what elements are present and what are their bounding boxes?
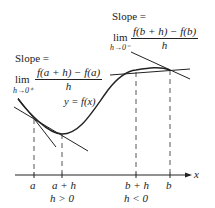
right-numerator: f(b + h) − f(b) [131,26,198,39]
x-axis-label: x [194,169,199,180]
left-numerator: f(a + h) − f(a) [35,67,102,80]
tangent-line-at-a [18,98,56,147]
left-lim-subscript: h→0⁺ [13,86,33,95]
left-lim-label: lim [15,74,30,85]
right-lim-label: lim [113,32,128,43]
tick-label-b: b [166,180,172,191]
tick-label-b-plus-h: b + h [125,180,149,191]
tick-label-a: a [30,180,36,191]
x-axis-arrow-icon [185,173,192,178]
condition-h-negative: h < 0 [124,193,148,204]
right-lim-subscript: h→0⁻ [110,43,130,52]
condition-h-positive: h > 0 [50,193,74,204]
tangent-line-at-b [110,69,190,75]
right-slope-label: Slope = [112,11,146,22]
secant-line-b [131,52,190,79]
left-denominator: h [66,80,72,92]
left-slope-label: Slope = [15,53,49,64]
right-difference-quotient: f(b + h) − f(b) h [131,26,198,51]
left-difference-quotient: f(a + h) − f(a) h [35,67,102,92]
curve-label: y = f(x) [64,97,96,108]
right-denominator: h [162,39,168,51]
tick-label-a-plus-h: a + h [52,180,76,191]
